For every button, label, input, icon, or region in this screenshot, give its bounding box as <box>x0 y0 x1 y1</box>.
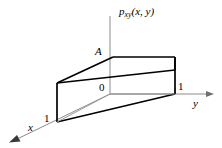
axes-group <box>13 16 206 141</box>
vertical-axis-label-args: (x, y) <box>132 5 155 17</box>
wedge-diagram-svg <box>0 0 222 148</box>
construction-line-origin <box>57 94 110 122</box>
vertical-axis-label: pxy(x, y) <box>119 6 154 19</box>
x-axis-label: x <box>28 122 33 133</box>
x-axis-arrowhead <box>9 135 21 143</box>
y-axis-label: y <box>193 98 198 109</box>
x-tick-label: 1 <box>44 113 50 124</box>
edge-top-back-left <box>57 70 175 83</box>
origin-label: 0 <box>99 82 105 93</box>
figure-container: pxy(x, y) A 0 y x 1 1 <box>0 0 222 148</box>
vertical-axis-label-subscript: xy <box>125 10 132 19</box>
y-axis-arrowhead <box>206 91 214 97</box>
edge-bottom-front <box>57 94 175 122</box>
x-axis-line <box>13 94 110 141</box>
apex-label: A <box>95 46 102 57</box>
y-tick-label: 1 <box>178 81 184 92</box>
